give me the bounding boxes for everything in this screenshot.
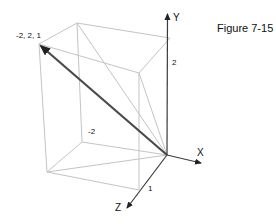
z-tick-label: 1 [148,184,153,193]
box-edge-top-back [77,23,170,38]
x-tick-label: -2 [88,127,96,136]
z-axis [127,155,167,208]
box-edge-top-right [139,38,170,73]
vector-label: -2, 2, 1 [16,31,41,40]
x-axis [167,155,201,163]
box-edge-back-left-vertical [77,23,82,142]
axes [127,14,201,208]
box-edge-top-left [39,23,77,44]
y-axis [167,14,168,155]
box-edge-bottom-front [47,172,139,190]
vector-diagram: -2, 2, 1 Y X Z 2 -2 1 Figure 7-15 [0,0,276,224]
y-tick-label: 2 [172,58,177,67]
x-axis-label: X [197,147,204,158]
diagonal-bottom [47,155,167,172]
z-axis-label: Z [115,202,121,213]
y-axis-label: Y [173,12,180,23]
bounding-box [39,23,170,190]
figure-caption: Figure 7-15 [217,22,273,34]
box-edge-front-left-vertical [39,44,47,172]
